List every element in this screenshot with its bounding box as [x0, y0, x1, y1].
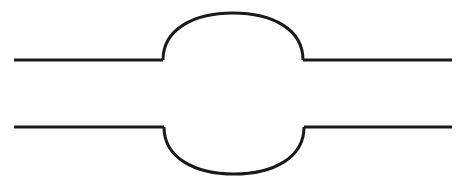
figure-canvas: Two horizontal lines interrupted by oppo…	[0, 0, 464, 188]
canvas-background	[0, 0, 464, 188]
line-drawing-svg: Two horizontal lines interrupted by oppo…	[0, 0, 464, 188]
